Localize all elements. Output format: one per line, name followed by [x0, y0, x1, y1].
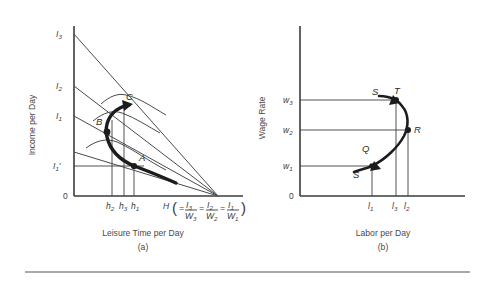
indifference-curve-2 [93, 112, 160, 133]
formula-fraction-1: I3 W3 [185, 200, 197, 222]
budget-line-w1 [74, 116, 218, 196]
panel-b: S S Q R T w3 w2 w1 0 l1 l3 l2 Wage Rate … [257, 26, 465, 252]
formula-f1-den: W3 [185, 211, 197, 222]
panel-a-x-axis-title: Leisure Time per Day [102, 228, 184, 238]
point-a-label: A [138, 152, 145, 163]
formula-equals-0: = [179, 203, 184, 213]
panel-b-caption: (b) [378, 242, 389, 252]
point-t-dot [393, 97, 399, 103]
x-tick-h2: h2 [106, 201, 115, 212]
supply-label-s-upper: S [372, 86, 379, 97]
panel-b-y-axis-title: Wage Rate [257, 96, 267, 139]
x-tick-h1: h1 [131, 201, 139, 212]
y-tick-w1: w1 [283, 161, 293, 172]
formula-open-paren: ( [172, 199, 177, 216]
panel-a-caption: (a) [138, 242, 149, 252]
formula-equals-1: = [199, 203, 204, 213]
formula-close-paren: ) [241, 199, 246, 216]
y-tick-i2: I2 [56, 81, 62, 92]
figure-root: A B C I3 I2 I1 I1' 0 h2 h3 h1 H ( = I3 W… [0, 0, 493, 284]
budget-line-w2 [74, 86, 218, 196]
formula-f3-num: I1 [228, 200, 234, 211]
point-r-dot [405, 127, 411, 133]
y-tick-i3: I3 [56, 29, 62, 40]
x-tick-h3: h3 [119, 201, 128, 212]
x-tick-l2: l2 [404, 201, 410, 212]
y-tick-i1-prime: I1' [53, 161, 61, 172]
panel-b-origin-label: 0 [289, 191, 294, 201]
economics-figure: A B C I3 I2 I1 I1' 0 h2 h3 h1 H ( = I3 W… [0, 0, 493, 284]
supply-label-s-lower: S [353, 169, 360, 180]
point-t-label: T [394, 85, 401, 96]
panel-b-x-axis-title: Labor per Day [356, 228, 411, 238]
point-b-dot [104, 129, 111, 136]
x-tick-l3: l3 [392, 201, 398, 212]
formula-f2-den: W2 [206, 211, 218, 222]
y-tick-w3: w3 [283, 95, 293, 106]
formula-f1-num: I3 [186, 200, 192, 211]
panel-a-y-axis-title: Income per Day [27, 94, 37, 155]
supply-curve-bend [372, 100, 408, 166]
panel-a: A B C I3 I2 I1 I1' 0 h2 h3 h1 H ( = I3 W… [27, 26, 246, 252]
point-r-label: R [414, 124, 421, 135]
y-tick-i1: I1 [56, 111, 62, 122]
formula-f2-num: I2 [207, 200, 213, 211]
point-c-label: C [126, 91, 133, 102]
locus-abc [106, 105, 176, 183]
endpoint-h-label: H [163, 201, 170, 211]
point-b-label: B [96, 116, 103, 127]
x-tick-l1: l1 [368, 201, 373, 212]
point-q-label: Q [362, 143, 370, 154]
panel-a-origin-label: 0 [63, 191, 68, 201]
formula-equals-2: = [220, 203, 225, 213]
formula-fraction-3: I1 W1 [227, 200, 239, 222]
point-a-dot [131, 163, 137, 169]
formula-f3-den: W1 [227, 211, 238, 222]
formula-fraction-2: I2 W2 [206, 200, 218, 222]
point-q-dot [369, 163, 375, 169]
y-tick-w2: w2 [283, 125, 293, 136]
